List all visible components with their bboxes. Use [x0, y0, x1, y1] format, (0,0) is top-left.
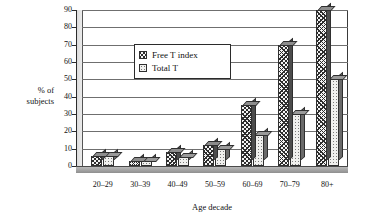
y-axis-tick	[72, 79, 77, 80]
bar-group	[271, 10, 308, 166]
y-axis-tick-label: 50	[54, 75, 72, 83]
bar-face	[142, 162, 151, 165]
bar-top-face	[279, 41, 298, 46]
bar-top-face	[317, 6, 336, 11]
bar-face	[279, 46, 288, 165]
bar	[129, 161, 140, 166]
y-axis-tick	[72, 114, 77, 115]
chart-legend: Free T index Total T	[134, 44, 231, 79]
bar-face	[179, 158, 188, 165]
y-axis-tick	[72, 149, 77, 150]
y-axis-tick-label: 0	[54, 162, 72, 170]
bar-group	[309, 10, 346, 166]
bar-side-face	[251, 98, 256, 161]
y-axis-tick-label: 40	[54, 93, 72, 101]
bar-top-face	[329, 75, 348, 80]
bar-face	[92, 157, 101, 165]
x-axis-title: Age decade	[76, 202, 348, 212]
x-axis-tick-label: 40–49	[159, 180, 196, 189]
bar	[278, 45, 289, 166]
bar	[241, 105, 252, 166]
plot-area	[76, 10, 348, 173]
bar-group	[234, 10, 271, 166]
y-axis-tick	[72, 45, 77, 46]
y-axis-title: % of subjects	[2, 85, 54, 106]
bar-group	[121, 10, 158, 166]
bar-face	[130, 162, 139, 165]
y-axis-tick	[72, 10, 77, 11]
legend-swatch-free-t-index-icon	[139, 51, 147, 59]
bar-chart: % of subjects 0102030405060708090 20–293…	[0, 0, 376, 224]
bar-top-face	[242, 101, 261, 106]
y-axis-tick-label: 70	[54, 41, 72, 49]
legend-swatch-total-t-icon	[139, 64, 147, 72]
x-axis-tick-label: 50–59	[196, 180, 233, 189]
x-axis-tick-label: 70–79	[271, 180, 308, 189]
legend-item-total-t: Total T	[139, 61, 226, 74]
y-axis-tick-label: 90	[54, 6, 72, 14]
y-axis-title-line-1: % of	[2, 85, 54, 96]
y-axis-title-line-2: subjects	[2, 96, 54, 107]
bar-top-face	[254, 131, 273, 136]
bar-face	[167, 153, 176, 165]
bar	[166, 152, 177, 166]
bar	[316, 10, 327, 166]
y-axis-tick-label: 30	[54, 110, 72, 118]
x-axis-tick-label: 80+	[309, 180, 346, 189]
bar	[91, 156, 102, 166]
bar-group	[196, 10, 233, 166]
x-axis-tick-label: 60–69	[234, 180, 271, 189]
y-axis-tick-label: 80	[54, 23, 72, 31]
legend-item-free-t-index: Free T index	[139, 48, 226, 61]
bar	[203, 145, 214, 166]
y-axis-tick-labels: 0102030405060708090	[54, 10, 72, 173]
x-axis-tick-label: 30–39	[121, 180, 158, 189]
legend-label-free-t-index: Free T index	[152, 50, 198, 60]
legend-label-total-t: Total T	[152, 63, 178, 73]
bar-face	[317, 11, 326, 165]
bar-top-face	[216, 145, 235, 150]
y-axis-tick-label: 10	[54, 145, 72, 153]
bar-side-face	[288, 37, 293, 161]
bar-face	[104, 157, 113, 165]
y-axis-tick	[72, 131, 77, 132]
y-axis-tick	[72, 62, 77, 63]
y-axis-tick-label: 20	[54, 127, 72, 135]
bar-top-face	[179, 153, 198, 158]
y-axis-tick	[72, 27, 77, 28]
bar-side-face	[326, 3, 331, 161]
x-axis-tick-labels: 20–2930–3940–4950–5960–6970–7980+	[76, 180, 348, 194]
bar-group	[84, 10, 121, 166]
plot-floor	[76, 166, 348, 173]
bar	[178, 157, 189, 166]
bar-side-face	[338, 72, 343, 161]
y-axis-tick	[72, 97, 77, 98]
bar-face	[242, 106, 251, 165]
bar-group	[159, 10, 196, 166]
x-axis-tick-label: 20–29	[84, 180, 121, 189]
bar-top-face	[291, 110, 310, 115]
y-axis-tick-label: 60	[54, 58, 72, 66]
